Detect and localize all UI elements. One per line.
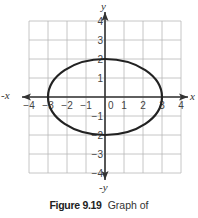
svg-text:−3: −3: [92, 149, 104, 160]
neg-x-axis-label: -x: [1, 89, 10, 101]
svg-text:4: 4: [178, 100, 184, 111]
x-axis-label: x: [189, 90, 195, 102]
svg-text:1: 1: [97, 73, 103, 84]
svg-text:−4: −4: [23, 100, 35, 111]
svg-text:0: 0: [108, 100, 114, 111]
svg-text:−1: −1: [92, 111, 104, 122]
svg-text:2: 2: [140, 100, 146, 111]
svg-text:1: 1: [121, 100, 127, 111]
figure-label: Figure 9.19: [50, 199, 102, 211]
caption-text: Graph of: [108, 199, 149, 211]
ellipse-graph: −4−3−2−1012344321−1−2−3−4 x -x y -y: [0, 0, 198, 198]
y-axis-label: y: [100, 0, 106, 12]
svg-text:−4: −4: [92, 168, 104, 179]
axes: [22, 12, 188, 180]
neg-y-axis-label: -y: [99, 181, 108, 193]
svg-text:−1: −1: [80, 100, 92, 111]
figure-caption: Figure 9.19Graph of: [0, 199, 198, 211]
svg-text:−2: −2: [61, 100, 73, 111]
svg-text:3: 3: [97, 35, 103, 46]
svg-text:4: 4: [97, 16, 103, 27]
